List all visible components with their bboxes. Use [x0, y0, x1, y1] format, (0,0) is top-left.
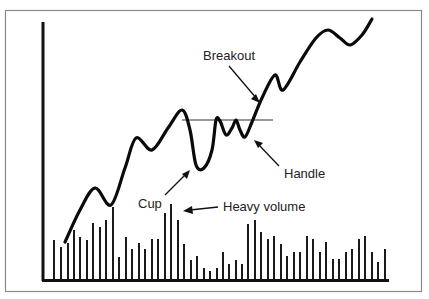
handle-label: Handle	[284, 166, 325, 181]
breakout-label: Breakout	[203, 48, 255, 63]
cup-label: Cup	[138, 196, 162, 211]
heavy-volume-label: Heavy volume	[223, 199, 305, 214]
cup-and-handle-chart: Breakout Handle Cup Heavy volume	[0, 0, 429, 299]
